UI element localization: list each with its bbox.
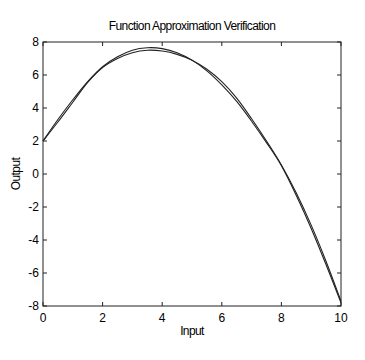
y-tick-label: 6: [32, 68, 39, 82]
y-tick-label: -4: [28, 233, 39, 247]
chart-title: Function Approximation Verification: [109, 19, 275, 33]
y-tick-label: -2: [28, 200, 39, 214]
x-axis-label: Input: [180, 324, 205, 338]
y-tick-label: -6: [28, 266, 39, 280]
line-chart: 0246810 -8-6-4-202468 Function Approxima…: [0, 0, 365, 360]
y-tick-label: 8: [32, 35, 39, 49]
y-axis-label: Output: [9, 157, 23, 191]
x-tick-label: 0: [40, 311, 47, 325]
x-tick-label: 4: [159, 311, 166, 325]
x-tick-label: 10: [334, 311, 348, 325]
y-tick-label: 4: [32, 101, 39, 115]
x-tick-label: 8: [278, 311, 285, 325]
y-tick-label: 2: [32, 134, 39, 148]
y-tick-label: 0: [32, 167, 39, 181]
y-tick-label: -8: [28, 299, 39, 313]
x-tick-label: 6: [218, 311, 225, 325]
x-tick-label: 2: [99, 311, 106, 325]
